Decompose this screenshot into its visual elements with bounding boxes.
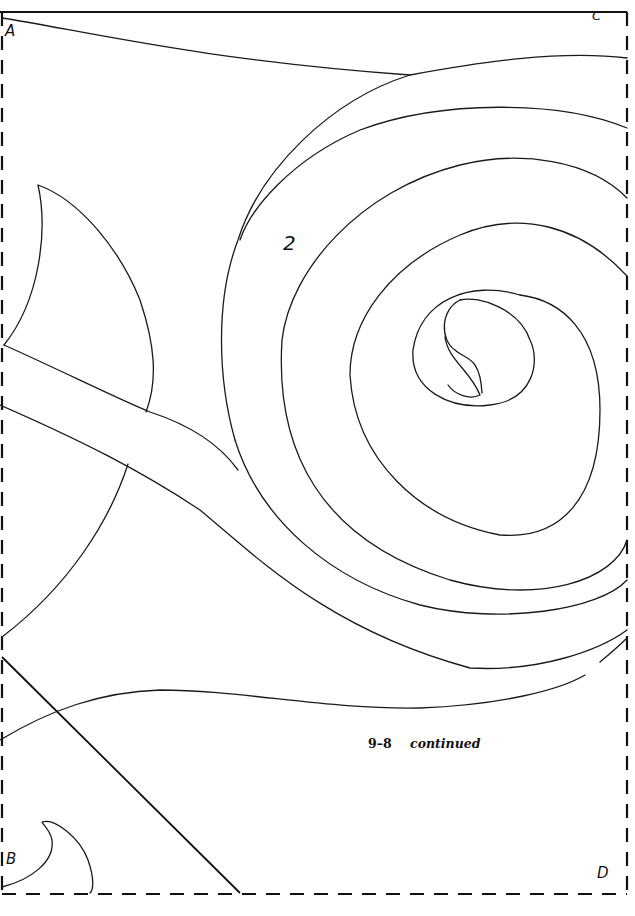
piece-label-2: 2 bbox=[283, 231, 296, 255]
spiral-arc-3 bbox=[281, 158, 627, 590]
spiral-center bbox=[444, 300, 482, 393]
corner-label-a: A bbox=[5, 22, 15, 40]
leaf-stem-curve bbox=[2, 464, 128, 637]
pattern-page: A C B D 2 9–8 continued bbox=[0, 0, 635, 916]
pattern-drawing bbox=[0, 0, 635, 916]
corner-label-b: B bbox=[6, 850, 16, 868]
spiral-arc-5 bbox=[413, 290, 534, 406]
corner-label-c: C bbox=[592, 8, 601, 23]
lower-right-tick bbox=[600, 638, 627, 662]
spiral-outer-arc bbox=[222, 75, 411, 440]
lower-sweep-2 bbox=[0, 675, 585, 740]
figure-number: 9–8 bbox=[368, 736, 392, 751]
figure-caption: 9–8 continued bbox=[368, 736, 480, 751]
top-wave-line bbox=[2, 18, 627, 75]
diagonal-line bbox=[2, 657, 240, 893]
corner-label-d: D bbox=[597, 864, 609, 882]
band-upper-line bbox=[4, 345, 238, 470]
leaf-shape bbox=[4, 185, 153, 412]
figure-continued-note: continued bbox=[410, 736, 480, 751]
spiral-arc-4 bbox=[350, 223, 627, 535]
spiral-body-line bbox=[235, 440, 627, 614]
